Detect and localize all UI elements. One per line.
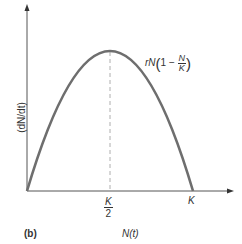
y-axis-label: (dN/dt) xyxy=(16,93,27,143)
x-axis-arrow-icon xyxy=(227,189,234,194)
curve-equation: rN(1 − NK) xyxy=(145,54,191,73)
x-tick-k: K xyxy=(188,195,195,206)
y-axis-arrow-icon xyxy=(25,4,30,11)
x-tick-k-half: K2 xyxy=(104,196,113,219)
panel-label: (b) xyxy=(24,228,37,239)
logistic-growth-chart xyxy=(0,0,242,244)
x-axis-label: N(t) xyxy=(122,228,139,239)
